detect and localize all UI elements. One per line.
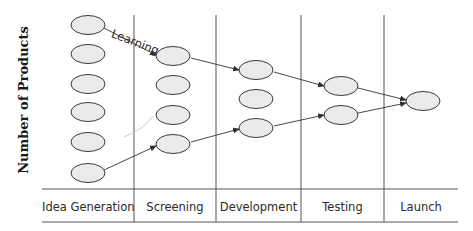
y-axis-label: Number of Products bbox=[16, 26, 31, 174]
stage-label-idea-generation: Idea Generation bbox=[42, 198, 134, 216]
idea-node bbox=[71, 75, 105, 94]
stage-grid bbox=[42, 15, 458, 222]
arrow-testing-to-launch-top bbox=[358, 88, 406, 100]
testing-node bbox=[324, 77, 358, 96]
development-node bbox=[239, 119, 273, 138]
arrow-development-to-testing-top bbox=[274, 72, 324, 86]
arrow-testing-to-launch-bottom bbox=[358, 103, 406, 113]
stage-label-development: Development bbox=[216, 198, 301, 216]
diagram-canvas bbox=[0, 0, 473, 231]
screening-node bbox=[156, 106, 190, 125]
faint-curve-artifact bbox=[124, 116, 154, 137]
arrow-development-to-testing-bottom bbox=[274, 115, 324, 126]
launch-node bbox=[406, 92, 440, 111]
development-node bbox=[239, 90, 273, 109]
development-node bbox=[239, 61, 273, 80]
screening-node bbox=[156, 76, 190, 95]
arrow-idea-to-screening-bottom bbox=[104, 146, 156, 170]
launch-nodes bbox=[406, 92, 440, 111]
idea-generation-nodes bbox=[71, 16, 105, 183]
stage-label-testing: Testing bbox=[301, 198, 384, 216]
stage-label-launch: Launch bbox=[384, 198, 458, 216]
idea-node bbox=[71, 16, 105, 35]
screening-node bbox=[156, 47, 190, 66]
screening-node bbox=[156, 135, 190, 154]
product-development-funnel-diagram: Number of Products Learning Idea Generat… bbox=[0, 0, 473, 231]
idea-node bbox=[71, 164, 105, 183]
testing-nodes bbox=[324, 77, 358, 125]
stage-label-screening: Screening bbox=[134, 198, 216, 216]
screening-nodes bbox=[156, 47, 190, 154]
arrow-screening-to-development-top bbox=[191, 58, 239, 70]
idea-node bbox=[71, 133, 105, 152]
arrow-screening-to-development-bottom bbox=[191, 129, 239, 142]
idea-node bbox=[71, 103, 105, 122]
development-nodes bbox=[239, 61, 273, 138]
idea-node bbox=[71, 45, 105, 64]
testing-node bbox=[324, 106, 358, 125]
